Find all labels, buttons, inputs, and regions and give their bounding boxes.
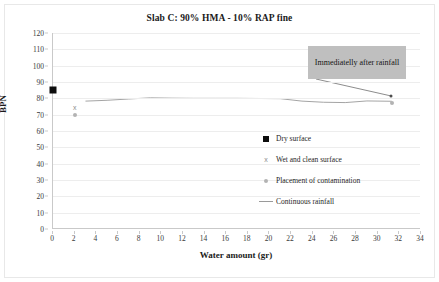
annotation-immediately-after-rainfall: Immediatelly after rainfall [308,46,406,79]
x-axis-tick-labels: 0246810121416182022242628303234 [52,231,420,247]
y-tick-mark [45,98,48,99]
x-tick-label: 4 [93,234,97,243]
legend-item-wet-and-clean-surface: x Wet and clean surface [258,149,418,170]
y-tick-mark [45,33,48,34]
data-point-placement-of-contamination [73,113,77,117]
legend-marker-dot [258,176,274,186]
x-tick-label: 20 [265,234,273,243]
x-tick-label: 34 [416,234,424,243]
y-tick-label: 40 [37,159,45,168]
legend-label-dry-surface: Dry surface [274,134,311,143]
y-tick-mark [45,49,48,50]
legend-item-placement-of-contamination: Placement of contamination [258,170,418,191]
y-tick-mark [45,131,48,132]
y-tick-label: 120 [33,29,44,38]
x-tick-label: 32 [395,234,403,243]
x-tick-label: 24 [308,234,316,243]
x-tick-label: 14 [200,234,208,243]
y-tick-mark [45,229,48,230]
data-point-dry-surface [50,87,57,94]
y-axis-tick-labels: 0102030405060708090100110120 [0,33,48,229]
y-tick-mark [45,212,48,213]
x-tick-mark [74,231,75,234]
legend-label-wet-and-clean-surface: Wet and clean surface [274,155,342,164]
y-tick-label: 110 [33,45,44,54]
y-tick-mark [45,180,48,181]
x-tick-label: 0 [50,234,54,243]
x-tick-label: 18 [243,234,251,243]
gridline [53,33,420,34]
x-tick-mark [355,231,356,234]
x-tick-label: 16 [221,234,229,243]
data-point-placement-of-contamination [390,101,394,105]
x-tick-label: 6 [115,234,119,243]
y-tick-mark [45,65,48,66]
x-tick-mark [398,231,399,234]
gridline [53,82,420,83]
x-axis-title: Water amount (gr) [52,250,420,260]
legend-label-continuous-rainfall: Continuous rainfall [274,197,334,206]
x-tick-mark [160,231,161,234]
x-tick-mark [290,231,291,234]
x-tick-label: 12 [178,234,186,243]
x-tick-mark [182,231,183,234]
x-tick-label: 2 [72,234,76,243]
x-tick-label: 26 [330,234,338,243]
y-tick-label: 50 [37,143,45,152]
x-tick-label: 28 [351,234,359,243]
x-tick-label: 10 [156,234,164,243]
y-tick-label: 70 [37,110,45,119]
legend-item-dry-surface: Dry surface [258,128,418,149]
x-tick-mark [117,231,118,234]
y-tick-mark [45,114,48,115]
legend-marker-x: x [258,155,274,165]
x-tick-mark [312,231,313,234]
x-tick-mark [139,231,140,234]
legend-label-placement-of-contamination: Placement of contamination [274,176,360,185]
y-tick-label: 100 [33,61,44,70]
chart-legend: Dry surface x Wet and clean surface Plac… [258,128,418,212]
gridline [53,115,420,116]
y-tick-mark [45,163,48,164]
x-tick-mark [333,231,334,234]
y-tick-label: 0 [40,225,44,234]
x-tick-mark [268,231,269,234]
x-tick-label: 8 [137,234,141,243]
x-tick-mark [225,231,226,234]
legend-marker-line [258,197,274,207]
x-tick-mark [377,231,378,234]
y-tick-label: 60 [37,127,45,136]
chart-title: Slab C: 90% HMA - 10% RAP fine [0,13,439,23]
y-tick-label: 20 [37,192,45,201]
y-tick-mark [45,82,48,83]
gridline [53,98,420,99]
x-tick-mark [95,231,96,234]
annotation-target-point [389,94,392,97]
y-tick-label: 80 [37,94,45,103]
gridline [53,213,420,214]
legend-item-continuous-rainfall: Continuous rainfall [258,191,418,212]
x-tick-mark [420,231,421,234]
y-tick-mark [45,196,48,197]
x-tick-mark [247,231,248,234]
x-tick-mark [204,231,205,234]
x-tick-label: 22 [286,234,294,243]
y-tick-label: 90 [37,78,45,87]
annotation-text: Immediatelly after rainfall [315,58,399,68]
y-tick-label: 30 [37,176,45,185]
data-point-wet-and-clean-surface: x [73,103,77,110]
y-tick-mark [45,147,48,148]
x-tick-mark [52,231,53,234]
x-tick-label: 30 [373,234,381,243]
chart-figure: Slab C: 90% HMA - 10% RAP fine BPN 01020… [0,0,439,282]
legend-marker-filled-square [258,134,274,144]
y-tick-label: 10 [37,208,45,217]
